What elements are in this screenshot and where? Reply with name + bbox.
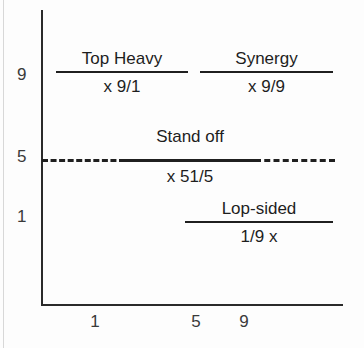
- x-axis-tick-1: 1: [85, 313, 105, 330]
- quadrant-synergy-ratio: x 9/9: [200, 73, 333, 95]
- quadrant-lop-sided-label: Lop-sided: [185, 200, 333, 221]
- quadrant-lop-sided-ratio: 1/9 x: [185, 223, 333, 245]
- quadrant-synergy-label: Synergy: [200, 50, 333, 71]
- quadrant-matrix-figure: 9 5 1 1 5 9 Top Heavy x 9/1 Synergy x 9/…: [0, 0, 364, 348]
- page-edge-rule: [3, 0, 4, 348]
- quadrant-lop-sided: Lop-sided 1/9 x: [185, 200, 333, 245]
- quadrant-top-heavy-label: Top Heavy: [56, 50, 188, 71]
- y-axis-tick-1: 1: [17, 208, 26, 225]
- quadrant-top-heavy: Top Heavy x 9/1: [56, 50, 188, 95]
- x-axis-tick-9: 9: [234, 313, 254, 330]
- quadrant-stand-off-label: Stand off: [125, 128, 255, 145]
- stand-off-divider-rule: [125, 159, 255, 162]
- stand-off-divider-dash-right: [255, 159, 335, 162]
- quadrant-stand-off-ratio: x 51/5: [125, 168, 255, 185]
- y-axis-tick-5: 5: [17, 148, 26, 165]
- stand-off-divider-dash-left: [42, 159, 125, 162]
- x-axis-line: [41, 304, 343, 306]
- quadrant-synergy: Synergy x 9/9: [200, 50, 333, 95]
- quadrant-top-heavy-ratio: x 9/1: [56, 73, 188, 95]
- y-axis-line: [41, 10, 43, 306]
- y-axis-tick-9: 9: [17, 66, 26, 83]
- x-axis-tick-5: 5: [186, 313, 206, 330]
